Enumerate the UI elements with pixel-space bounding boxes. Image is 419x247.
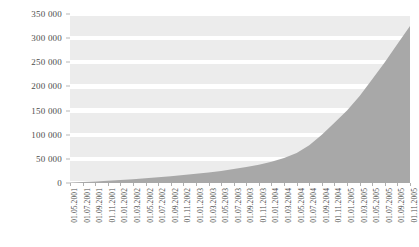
plot-area <box>70 14 410 183</box>
y-axis-tick-label: 350 000 <box>31 9 62 19</box>
x-axis-tick-label: 01.07.2003 <box>234 188 243 223</box>
x-axis-tick-label: 01.09.2002 <box>171 188 180 223</box>
x-axis-tick-mark <box>70 183 71 186</box>
y-axis-tick-label: 200 000 <box>31 81 62 91</box>
area-path <box>70 26 410 183</box>
x-axis-tick-label: 01.11.2001 <box>108 188 117 222</box>
x-axis-tick-mark <box>133 183 134 186</box>
x-axis-tick-mark <box>196 183 197 186</box>
x-axis-tick-label: 01.01.2003 <box>196 188 205 223</box>
x-axis-tick-label: 01.07.2004 <box>309 188 318 223</box>
x-axis-tick-label: 01.01.2004 <box>271 188 280 223</box>
x-axis-tick-label: 01.05.2004 <box>297 188 306 223</box>
y-axis-tick-label: 0 <box>57 178 62 188</box>
x-axis-tick-label: 01.09.2003 <box>246 188 255 223</box>
x-axis-tick-label: 01.11.2005 <box>410 188 419 222</box>
x-axis-tick-mark <box>334 183 335 186</box>
y-axis-tick-label: 250 000 <box>31 57 62 67</box>
x-axis-tick-label: 01.05.2001 <box>70 188 79 223</box>
x-axis-tick-label: 01.11.2002 <box>183 188 192 222</box>
x-axis-tick-mark <box>284 183 285 186</box>
area-series <box>70 14 410 183</box>
x-axis-tick-label: 01.09.2005 <box>397 188 406 223</box>
x-axis-tick-mark <box>410 183 411 186</box>
x-axis-tick-mark <box>183 183 184 186</box>
x-axis-tick-label: 01.05.2003 <box>221 188 230 223</box>
x-axis-tick-mark <box>360 183 361 186</box>
x-axis-tick-label: 01.07.2001 <box>83 188 92 223</box>
x-axis-tick-mark <box>95 183 96 186</box>
x-axis-tick-mark <box>271 183 272 186</box>
x-axis-tick-mark <box>309 183 310 186</box>
x-axis-tick-label: 01.03.2004 <box>284 188 293 223</box>
y-axis-tick-label: 100 000 <box>31 130 62 140</box>
x-axis-tick-mark <box>146 183 147 186</box>
x-axis-tick-mark <box>397 183 398 186</box>
y-axis-tick-label: 150 000 <box>31 106 62 116</box>
x-axis-tick-mark <box>234 183 235 186</box>
x-axis-tick-label: 01.09.2004 <box>322 188 331 223</box>
x-axis-tick-mark <box>347 183 348 186</box>
x-axis-tick-mark <box>297 183 298 186</box>
x-axis-tick-mark <box>322 183 323 186</box>
x-axis-tick-label: 01.03.2003 <box>209 188 218 223</box>
x-axis-tick-mark <box>120 183 121 186</box>
x-axis-tick-label: 01.09.2001 <box>95 188 104 223</box>
x-axis-tick-label: 01.03.2002 <box>133 188 142 223</box>
plot-left-edge <box>69 14 70 183</box>
x-axis-tick-label: 01.11.2003 <box>259 188 268 222</box>
x-axis-tick-mark <box>209 183 210 186</box>
x-axis: 01.05.200101.07.200101.09.200101.11.2001… <box>70 183 410 247</box>
x-axis-tick-mark <box>221 183 222 186</box>
x-axis-tick-label: 01.07.2005 <box>385 188 394 223</box>
x-axis-tick-label: 01.03.2005 <box>360 188 369 223</box>
x-axis-tick-mark <box>246 183 247 186</box>
x-axis-tick-label: 01.05.2002 <box>146 188 155 223</box>
x-axis-tick-mark <box>372 183 373 186</box>
y-axis-tick-label: 50 000 <box>36 154 62 164</box>
x-axis-tick-mark <box>158 183 159 186</box>
x-axis-tick-mark <box>385 183 386 186</box>
x-axis-tick-mark <box>83 183 84 186</box>
x-axis-tick-label: 01.01.2002 <box>120 188 129 223</box>
x-axis-tick-label: 01.11.2004 <box>334 188 343 222</box>
x-axis-tick-label: 01.05.2005 <box>372 188 381 223</box>
x-axis-tick-label: 01.07.2002 <box>158 188 167 223</box>
x-axis-tick-mark <box>171 183 172 186</box>
x-axis-tick-mark <box>259 183 260 186</box>
x-axis-tick-mark <box>108 183 109 186</box>
y-axis-tick-label: 300 000 <box>31 33 62 43</box>
x-axis-tick-label: 01.01.2005 <box>347 188 356 223</box>
y-axis: 050 000100 000150 000200 000250 000300 0… <box>0 0 70 197</box>
